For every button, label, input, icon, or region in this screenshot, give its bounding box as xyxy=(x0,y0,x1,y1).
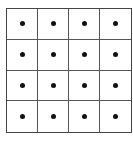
center-dot-icon xyxy=(82,114,87,119)
center-dot-icon xyxy=(51,83,56,88)
grid-cell xyxy=(38,9,69,40)
grid-cell xyxy=(69,71,100,102)
center-dot-icon xyxy=(113,114,118,119)
grid-cell xyxy=(38,71,69,102)
center-dot-icon xyxy=(82,83,87,88)
grid-cell xyxy=(38,101,69,132)
grid-cell xyxy=(69,40,100,71)
center-dot-icon xyxy=(113,83,118,88)
grid-cell xyxy=(7,40,38,71)
center-dot-icon xyxy=(82,52,87,57)
center-dot-icon xyxy=(51,52,56,57)
grid-cell xyxy=(100,101,131,132)
center-dot-icon xyxy=(20,52,25,57)
grid-cell xyxy=(7,101,38,132)
center-dot-icon xyxy=(51,21,56,26)
grid-cell xyxy=(7,71,38,102)
center-dot-icon xyxy=(82,21,87,26)
grid-cell xyxy=(100,9,131,40)
center-dot-icon xyxy=(113,52,118,57)
center-dot-icon xyxy=(20,83,25,88)
grid-cell xyxy=(69,101,100,132)
grid-cell xyxy=(69,9,100,40)
dot-grid xyxy=(6,8,132,133)
center-dot-icon xyxy=(51,114,56,119)
grid-cell xyxy=(7,9,38,40)
center-dot-icon xyxy=(113,21,118,26)
center-dot-icon xyxy=(20,114,25,119)
grid-cell xyxy=(100,40,131,71)
grid-cell xyxy=(38,40,69,71)
center-dot-icon xyxy=(20,21,25,26)
grid-cell xyxy=(100,71,131,102)
